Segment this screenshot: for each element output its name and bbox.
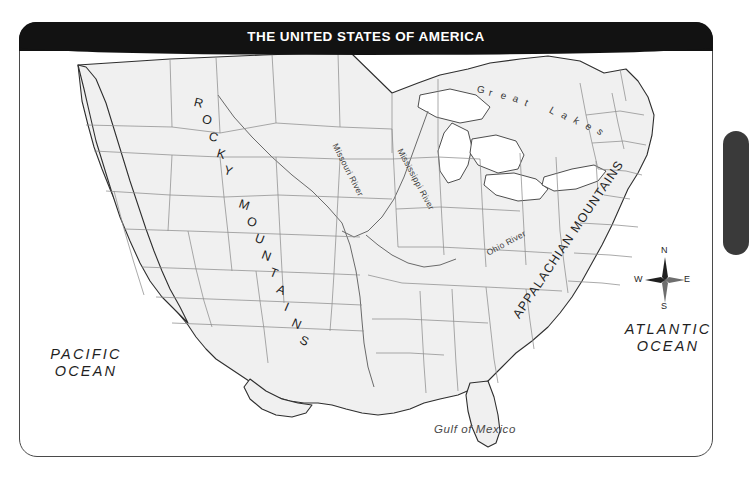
compass-west-label: W [634,274,643,284]
map-frame [19,22,713,457]
great-lakes-letter: G [476,83,486,95]
compass-north-label: N [661,245,668,255]
compass-east-label: E [684,274,690,284]
usa-map-graphic [20,23,713,457]
page-edge-tab [723,131,749,255]
map-title-bar: THE UNITED STATES OF AMERICA [19,22,713,51]
compass-south-label: S [661,301,667,311]
page-title: THE UNITED STATES OF AMERICA [247,29,484,44]
compass-rose: N E S W [637,251,693,309]
